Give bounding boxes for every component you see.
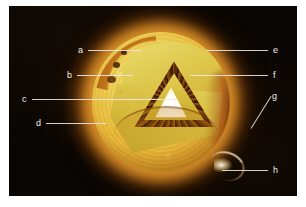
label-b: b	[67, 71, 72, 80]
leader-line-c	[32, 99, 176, 100]
leader-line-h	[222, 170, 268, 171]
watermark-text: Science Photo	[195, 50, 247, 57]
leader-line-d	[46, 123, 106, 124]
label-a: a	[78, 46, 83, 55]
label-d: d	[36, 119, 41, 128]
label-g: g	[272, 92, 277, 101]
label-f: f	[273, 71, 276, 80]
image-plate: Science Photo	[9, 6, 297, 196]
leader-line-b	[77, 75, 133, 76]
label-h: h	[273, 166, 278, 175]
label-c: c	[22, 95, 27, 104]
leader-line-f	[190, 75, 268, 76]
sun-structure-figure: Science Photo a b c d e f g h	[0, 0, 306, 207]
leader-line-a	[88, 50, 141, 51]
leader-line-e	[206, 50, 268, 51]
limb-edge-shadow	[206, 71, 230, 149]
label-e: e	[273, 46, 278, 55]
